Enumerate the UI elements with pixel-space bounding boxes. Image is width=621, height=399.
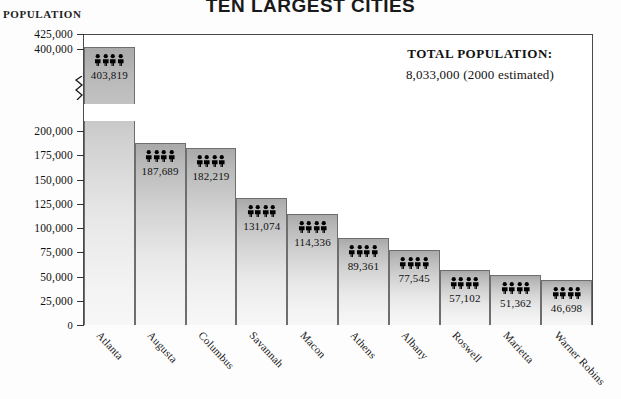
person-icon [349, 245, 356, 257]
bar: 51,362 [490, 275, 541, 325]
bar-value-label: 46,698 [551, 302, 582, 314]
x-axis-label: Savannah [247, 329, 286, 370]
person-icon [247, 205, 254, 217]
y-axis-tick-label: 150,000 [0, 174, 73, 186]
people-icon [552, 287, 582, 299]
bar-value-label: 182,219 [192, 170, 229, 182]
chart-title: TEN LARGEST CITIES [0, 0, 621, 17]
people-icon [298, 221, 328, 233]
people-icon [196, 155, 226, 167]
people-icon [399, 257, 429, 269]
person-icon [422, 257, 429, 269]
total-population-annotation: TOTAL POPULATION: 8,033,000 (2000 estima… [374, 46, 586, 83]
y-axis-tick-label: 50,000 [0, 271, 73, 283]
person-icon [356, 245, 363, 257]
person-icon [364, 245, 371, 257]
y-axis-tick [77, 34, 84, 35]
y-axis-tick [77, 228, 84, 229]
person-icon [552, 287, 559, 299]
person-icon [399, 257, 406, 269]
y-axis-tick [77, 49, 84, 50]
person-icon [559, 287, 566, 299]
y-axis-tick-label: 125,000 [0, 198, 73, 210]
person-icon [501, 282, 508, 294]
x-axis-label: Augusta [145, 329, 180, 365]
bar: 182,219 [186, 148, 237, 325]
person-icon [298, 221, 305, 233]
bar-value-label: 57,102 [449, 292, 480, 304]
y-axis-tick [77, 252, 84, 253]
y-axis-tick-label: 200,000 [0, 125, 73, 137]
bar-value-label: 114,336 [294, 236, 331, 248]
person-icon [255, 205, 262, 217]
person-icon [211, 155, 218, 167]
people-icon [501, 282, 531, 294]
y-axis-tick-label: 175,000 [0, 149, 73, 161]
person-icon [465, 277, 472, 289]
people-icon [95, 54, 125, 66]
person-icon [473, 277, 480, 289]
people-icon [247, 205, 277, 217]
person-icon [524, 282, 531, 294]
person-icon [219, 155, 226, 167]
bar: 77,545 [389, 250, 440, 325]
person-icon [160, 150, 167, 162]
x-axis-label: Columbus [196, 329, 237, 371]
y-axis-tick [77, 155, 84, 156]
bar: 187,689 [135, 143, 186, 325]
person-icon [153, 150, 160, 162]
person-icon [102, 54, 109, 66]
bar-value-label: 51,362 [500, 297, 531, 309]
person-icon [270, 205, 277, 217]
total-population-value: 8,033,000 (2000 estimated) [374, 67, 586, 83]
bar: 114,336 [287, 214, 338, 325]
x-axis-label: Macon [298, 329, 328, 360]
bar-value-label: 77,545 [398, 272, 429, 284]
people-icon [450, 277, 480, 289]
bar: 46,698 [541, 280, 592, 325]
y-axis-tick-label: 425,000 [0, 28, 73, 40]
person-icon [117, 54, 124, 66]
y-axis-tick [77, 301, 84, 302]
chart-container: TEN LARGEST CITIES POPULATION 425,000400… [0, 0, 621, 399]
people-icon [145, 150, 175, 162]
bar: 89,361 [338, 238, 389, 325]
x-axis-label: Marietta [501, 329, 536, 366]
person-icon [567, 287, 574, 299]
x-axis-label: Albany [399, 329, 431, 362]
person-icon [204, 155, 211, 167]
y-axis-tick-label: 0 [0, 320, 73, 331]
person-icon [305, 221, 312, 233]
people-icon [349, 245, 379, 257]
person-icon [516, 282, 523, 294]
x-axis-label: Atlanta [95, 329, 127, 362]
axis-break-icon [73, 76, 85, 100]
y-axis-caption: POPULATION [3, 8, 82, 20]
bar-break-zigzag [84, 104, 135, 121]
person-icon [95, 54, 102, 66]
person-icon [110, 54, 117, 66]
person-icon [371, 245, 378, 257]
person-icon [407, 257, 414, 269]
person-icon [458, 277, 465, 289]
bar-value-label: 403,819 [91, 69, 128, 81]
person-icon [262, 205, 269, 217]
total-population-label: TOTAL POPULATION: [374, 46, 586, 62]
y-axis-tick [77, 277, 84, 278]
person-icon [196, 155, 203, 167]
y-axis-tick-label: 400,000 [0, 43, 73, 55]
bar: 131,074 [236, 198, 287, 325]
person-icon [574, 287, 581, 299]
person-icon [145, 150, 152, 162]
y-axis-tick-label: 75,000 [0, 246, 73, 258]
y-axis-tick-label: 25,000 [0, 295, 73, 307]
person-icon [414, 257, 421, 269]
person-icon [509, 282, 516, 294]
y-axis-tick-label: 100,000 [0, 222, 73, 234]
y-axis-tick [77, 325, 84, 326]
x-axis-label: Athens [349, 329, 380, 361]
y-axis-tick [77, 180, 84, 181]
bar-value-label: 187,689 [142, 165, 179, 177]
person-icon [450, 277, 457, 289]
person-icon [320, 221, 327, 233]
